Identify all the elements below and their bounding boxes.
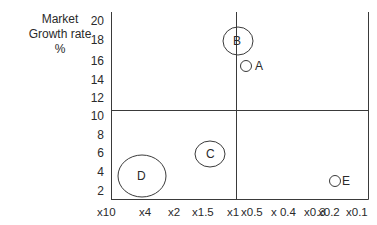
chart-plot-area: B A C D E xyxy=(0,0,377,225)
bubble-e xyxy=(330,176,341,187)
label-a: A xyxy=(255,59,263,73)
label-b: B xyxy=(233,34,241,48)
bubble-a xyxy=(241,61,252,72)
label-e: E xyxy=(342,174,350,188)
label-d: D xyxy=(137,169,146,183)
label-c: C xyxy=(206,147,215,161)
